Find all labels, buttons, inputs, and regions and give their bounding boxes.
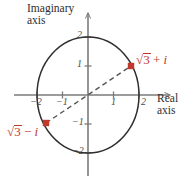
x-tick-label-neg1: −1 xyxy=(56,97,68,108)
imaginary-axis-label-line1: Imaginary xyxy=(27,2,74,14)
complex-plane-canvas xyxy=(0,0,188,182)
point-marker-sqrt3-plus-i xyxy=(128,63,134,69)
radical-sign-lower: √3 xyxy=(7,124,21,140)
point-label-sqrt3-minus-i: √3 − i xyxy=(7,124,38,140)
operator-upper: + xyxy=(150,52,164,67)
real-axis-label-line1: Real xyxy=(157,92,178,104)
radicand-upper: 3 xyxy=(143,52,150,67)
complex-plane-figure: Imaginary axis Real axis −2 −1 1 2 2 1 −… xyxy=(0,0,188,182)
x-tick-label-neg2: −2 xyxy=(30,97,42,108)
real-axis-label: Real axis xyxy=(157,92,178,117)
imaginary-axis-label-line2: axis xyxy=(27,14,74,26)
imaginary-unit-lower: i xyxy=(34,124,38,139)
point-label-sqrt3-plus-i: √3 + i xyxy=(136,52,167,68)
imaginary-unit-upper: i xyxy=(163,52,167,67)
y-tick-label-pos2: 2 xyxy=(77,30,82,41)
point-marker-sqrt3-minus-i xyxy=(43,120,49,126)
y-tick-label-pos1: 1 xyxy=(77,59,82,70)
x-tick-label-pos1: 1 xyxy=(111,97,116,108)
x-tick-label-pos2: 2 xyxy=(141,97,146,108)
operator-lower: − xyxy=(21,124,35,139)
y-tick-label-neg2: −2 xyxy=(72,146,84,157)
imaginary-axis-label: Imaginary axis xyxy=(27,2,74,27)
radicand-lower: 3 xyxy=(14,124,21,139)
radical-sign-upper: √3 xyxy=(136,52,150,68)
y-tick-label-neg1: −1 xyxy=(72,117,84,128)
real-axis-label-line2: axis xyxy=(157,104,178,116)
